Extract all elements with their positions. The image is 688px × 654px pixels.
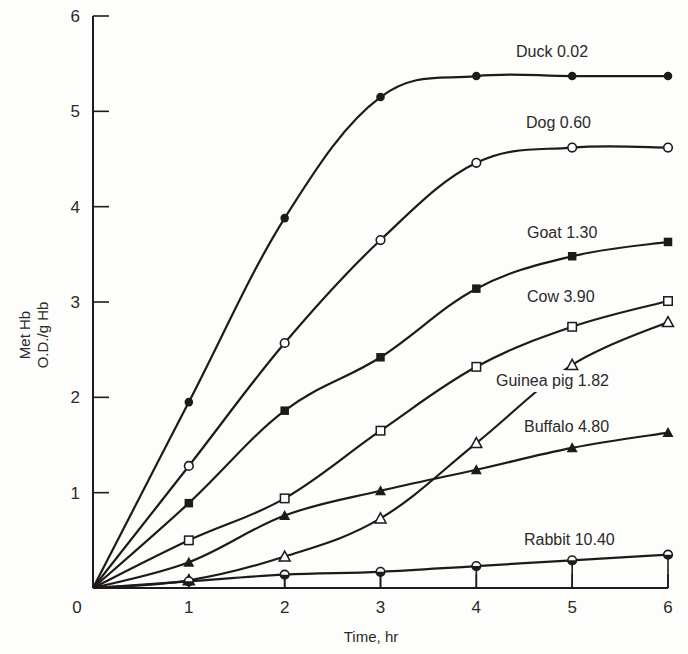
open-square-marker bbox=[472, 363, 481, 372]
half-filled-circle-marker bbox=[568, 556, 577, 588]
series-label-goat: Goat 1.30 bbox=[527, 224, 597, 241]
open-triangle-marker bbox=[375, 513, 386, 523]
open-circle-marker bbox=[568, 143, 577, 152]
half-filled-circle-marker bbox=[185, 577, 194, 588]
y-tick-label: 5 bbox=[71, 102, 80, 121]
open-triangle-marker bbox=[663, 317, 674, 327]
half-filled-circle-marker bbox=[280, 570, 289, 588]
x-tick-label: 0 bbox=[72, 598, 81, 617]
x-axis-title: Time, hr bbox=[344, 628, 398, 645]
x-tick-label: 4 bbox=[472, 598, 481, 617]
open-circle-marker bbox=[280, 339, 289, 348]
filled-square-marker bbox=[280, 406, 289, 415]
filled-square-marker bbox=[568, 252, 577, 260]
x-tick-label: 3 bbox=[376, 598, 385, 617]
series-label-cow: Cow 3.90 bbox=[527, 288, 595, 305]
open-square-marker bbox=[568, 323, 577, 332]
filled-square-marker bbox=[185, 499, 194, 508]
axes: 1234560123456 bbox=[71, 7, 673, 617]
open-circle-marker bbox=[185, 462, 194, 471]
filled-circle-marker bbox=[472, 72, 481, 81]
x-tick-label: 5 bbox=[567, 598, 576, 617]
met-hb-chart: 1234560123456 Duck 0.02Dog 0.60Goat 1.30… bbox=[0, 0, 688, 654]
series-label-duck: Duck 0.02 bbox=[516, 43, 588, 60]
open-square-marker bbox=[664, 297, 673, 306]
y-tick-label: 3 bbox=[71, 293, 80, 312]
series-label-buffalo: Buffalo 4.80 bbox=[524, 418, 609, 435]
markers-duck bbox=[185, 72, 673, 407]
x-tick-label: 2 bbox=[280, 598, 289, 617]
half-filled-circle-marker bbox=[664, 550, 673, 588]
curves bbox=[93, 74, 668, 588]
open-circle-marker bbox=[664, 143, 673, 152]
filled-square-marker bbox=[472, 284, 481, 293]
filled-square-marker bbox=[664, 238, 673, 247]
open-circle-marker bbox=[472, 159, 481, 168]
x-tick-label: 6 bbox=[663, 598, 672, 617]
x-tick-label: 1 bbox=[184, 598, 193, 617]
series-label-rabbit: Rabbit 10.40 bbox=[524, 531, 615, 548]
half-filled-circle-marker bbox=[376, 567, 385, 588]
curve-guinea-pig bbox=[93, 322, 668, 588]
svg-text:Met Hb: Met Hb bbox=[16, 311, 33, 359]
open-circle-marker bbox=[376, 236, 385, 245]
y-axis-title: Met Hb O.D./g Hb bbox=[16, 302, 51, 369]
y-tick-label: 6 bbox=[71, 7, 80, 26]
svg-text:O.D./g Hb: O.D./g Hb bbox=[34, 302, 51, 369]
y-tick-label: 1 bbox=[71, 484, 80, 503]
filled-square-marker bbox=[376, 353, 385, 362]
filled-circle-marker bbox=[280, 214, 289, 223]
open-square-marker bbox=[376, 426, 385, 435]
series-label-dog: Dog 0.60 bbox=[526, 114, 591, 131]
y-tick-label: 4 bbox=[71, 198, 80, 217]
data-markers bbox=[183, 72, 673, 588]
half-filled-circle-marker bbox=[472, 562, 481, 588]
filled-circle-marker bbox=[185, 398, 194, 407]
series-labels: Duck 0.02Dog 0.60Goat 1.30Cow 3.90Guinea… bbox=[496, 43, 615, 548]
y-tick-label: 2 bbox=[71, 388, 80, 407]
filled-circle-marker bbox=[664, 72, 673, 81]
curve-buffalo bbox=[93, 433, 668, 588]
filled-circle-marker bbox=[376, 93, 385, 102]
series-label-guinea-pig: Guinea pig 1.82 bbox=[496, 372, 609, 389]
filled-circle-marker bbox=[568, 72, 577, 81]
open-square-marker bbox=[185, 536, 194, 545]
open-square-marker bbox=[280, 494, 289, 503]
open-triangle-marker bbox=[567, 359, 578, 369]
